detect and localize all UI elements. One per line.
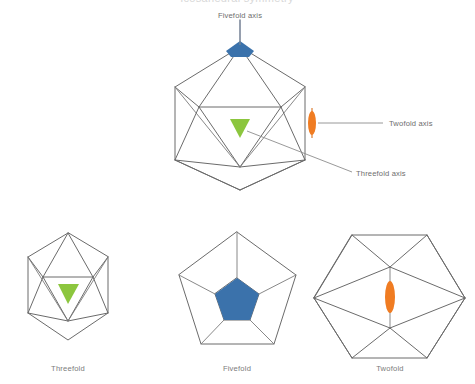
edge-lower-left-to-bottom-mid (175, 160, 240, 167)
threefold-axis-marker-triangle (230, 119, 250, 138)
twofold-edge-tl-center (352, 235, 390, 267)
edge-lower-right-to-bottom-mid (240, 160, 305, 167)
threefold-leader-line (247, 131, 352, 172)
twofold-edge-tr-right (427, 235, 465, 298)
twofold-edge-bl-left (314, 298, 352, 358)
edge-left-top-to-upper-left (175, 87, 199, 107)
main-icosahedron: Fivefold axis Twofold axis Threefold axi… (175, 11, 433, 190)
edge-back-diagonal-right (240, 87, 305, 167)
fivefold-view-caption: Fivefold (223, 364, 251, 373)
fivefold-spoke-bottom-left (201, 320, 224, 344)
twofold-view: Twofold (314, 235, 465, 373)
threefold-edge-apex-right (68, 233, 93, 277)
fivefold-spoke-bottom-right (250, 320, 274, 344)
edge-lower-left-to-bottom-vertex (175, 160, 240, 190)
twofold-edge-br-right (427, 298, 465, 358)
twofold-edge-left-to-lowercenter (314, 298, 390, 328)
edge-upper-left-to-lower-left (175, 107, 199, 160)
twofold-edge-bl-center (352, 328, 390, 358)
threefold-axis-label: Threefold axis (356, 169, 406, 178)
edge-back-diagonal-left (175, 87, 240, 167)
figure-root: Icosahedral symmetry (0, 0, 475, 384)
twofold-axis-label: Twofold axis (389, 119, 433, 128)
threefold-view: Threefold (28, 233, 108, 373)
threefold-edge-right-down (93, 277, 108, 313)
fivefold-axis-label: Fivefold axis (218, 11, 262, 20)
twofold-edge-br-center (390, 328, 427, 358)
fivefold-view: Fivefold (179, 232, 296, 373)
edge-lower-right-to-bottom-vertex (240, 160, 305, 190)
figure-svg: Icosahedral symmetry (0, 0, 475, 384)
twofold-view-caption: Twofold (376, 364, 404, 373)
twofold-edge-tr-center (390, 235, 427, 267)
twofold-edge-left-to-uppercenter (314, 267, 390, 298)
twofold-view-marker-lens (385, 281, 395, 313)
twofold-edge-right-to-uppercenter (390, 267, 465, 298)
twofold-edge-tl-left (314, 235, 352, 298)
threefold-edge-apex-left (43, 233, 68, 277)
threefold-edge-left-down (28, 277, 43, 313)
threefold-view-marker-triangle (58, 284, 79, 304)
threefold-view-caption: Threefold (51, 364, 85, 373)
twofold-axis-marker-lens (308, 111, 316, 135)
twofold-edge-right-to-lowercenter (390, 298, 465, 328)
edge-right-top-to-upper-right (281, 87, 305, 107)
figure-title-ghost: Icosahedral symmetry (180, 0, 294, 4)
